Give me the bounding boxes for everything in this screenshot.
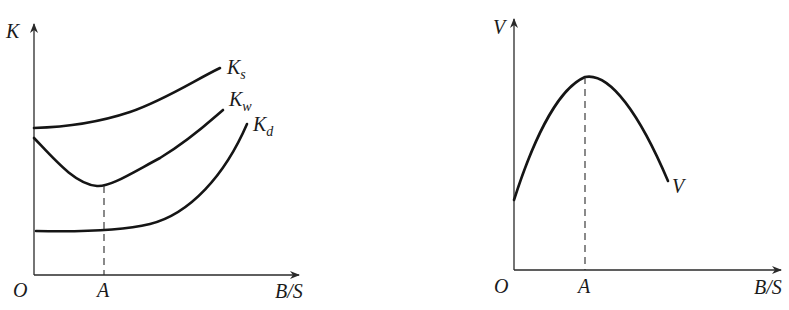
kd-label: Kd <box>252 113 274 139</box>
kd-curve <box>36 124 247 231</box>
right-chart: V V O A B/S <box>493 16 782 298</box>
diagram-canvas: K Ks Kw Kd O A B/S V V O A B/S <box>0 0 789 310</box>
ks-curve <box>34 68 220 128</box>
kw-label: Kw <box>228 88 252 114</box>
ks-label: Ks <box>226 56 246 82</box>
left-x-axis-label: B/S <box>275 280 303 302</box>
left-y-axis-label: K <box>5 20 21 42</box>
left-origin-label: O <box>13 279 27 301</box>
right-a-label: A <box>576 275 591 297</box>
left-chart: K Ks Kw Kd O A B/S <box>5 20 303 302</box>
kw-curve <box>34 110 223 186</box>
left-a-label: A <box>95 279 110 301</box>
right-x-axis-label: B/S <box>754 276 782 298</box>
right-y-axis-label: V <box>493 16 508 38</box>
v-curve-label: V <box>672 175 687 197</box>
v-curve <box>514 77 668 200</box>
right-origin-label: O <box>494 275 508 297</box>
